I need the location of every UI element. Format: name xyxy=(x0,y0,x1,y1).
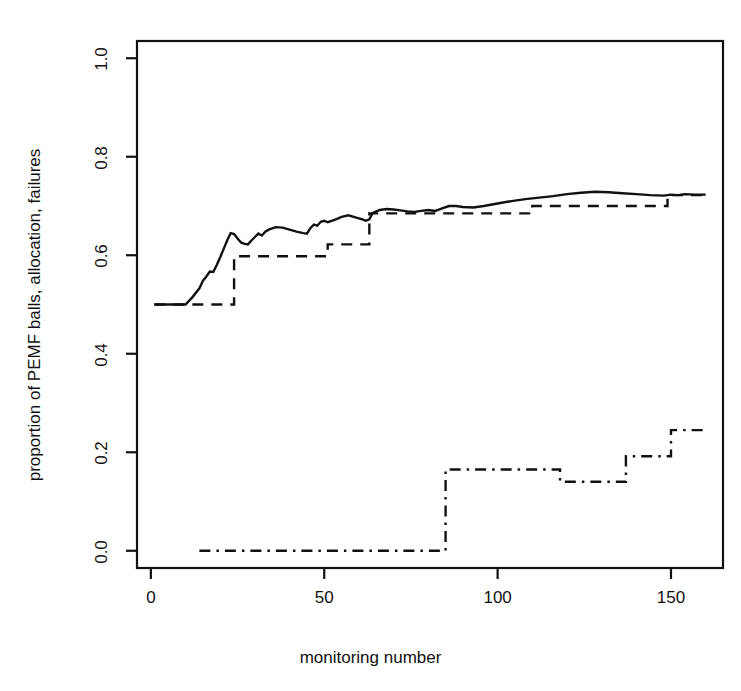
series-line-failures xyxy=(199,430,705,551)
series-line-allocation xyxy=(154,195,705,304)
y-tick-label: 0.0 xyxy=(92,528,112,576)
y-tick-label: 0.4 xyxy=(92,331,112,379)
y-tick-label: 0.8 xyxy=(92,134,112,182)
y-tick-label: 1.0 xyxy=(92,35,112,83)
series-line-pemf-balls xyxy=(154,192,705,305)
x-tick-label: 0 xyxy=(121,588,181,608)
y-axis-ticks xyxy=(126,58,137,551)
axis-box xyxy=(137,41,723,568)
series-lines xyxy=(154,192,705,551)
x-tick-label: 50 xyxy=(294,588,354,608)
x-tick-label: 100 xyxy=(468,588,528,608)
chart-figure: proportion of PEMF balls, allocation, fa… xyxy=(0,0,741,691)
y-tick-label: 0.6 xyxy=(92,232,112,280)
y-tick-label: 0.2 xyxy=(92,429,112,477)
x-tick-label: 150 xyxy=(641,588,701,608)
x-axis-ticks xyxy=(151,568,671,579)
